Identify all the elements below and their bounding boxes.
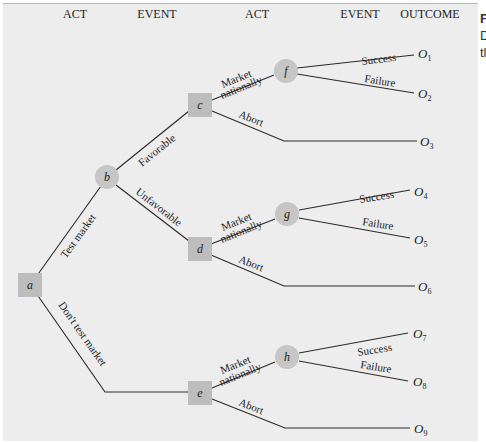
node-c-label: c (197, 98, 203, 112)
edge-labels: Test market Don't test market Favorable … (56, 51, 396, 417)
outcome-o2: O2 (418, 86, 431, 103)
outcome-o9: O9 (414, 421, 427, 438)
edge-favorable (116, 111, 189, 170)
outcome-o3: O3 (420, 134, 433, 151)
outcome-o6: O6 (418, 279, 431, 296)
node-g-label: g (284, 207, 290, 221)
outcome-o4: O4 (414, 184, 427, 201)
header-outcome: OUTCOME (400, 7, 459, 21)
outcome-o1: O1 (418, 46, 431, 63)
header-event-2: EVENT (340, 7, 380, 21)
label-d-abort: Abort (237, 253, 265, 274)
node-c: c (188, 93, 212, 117)
node-g: g (275, 202, 299, 226)
label-h-success: Success (356, 341, 392, 358)
node-d: d (188, 237, 212, 261)
decision-tree: ACT EVENT ACT EVENT OUTCOME Test market … (0, 0, 486, 442)
label-h-failure: Failure (360, 358, 393, 375)
header-act-2: ACT (245, 7, 270, 21)
header-event-1: EVENT (137, 7, 177, 21)
label-unfavorable: Unfavorable (134, 185, 185, 228)
node-b-label: b (104, 170, 110, 184)
node-h-label: h (284, 350, 290, 364)
label-e-abort: Abort (237, 396, 265, 417)
node-d-label: d (197, 242, 204, 256)
node-b: b (95, 165, 119, 189)
label-g-success: Success (358, 188, 394, 205)
outcome-o7: O7 (413, 326, 426, 343)
label-f-success: Success (361, 51, 397, 67)
node-a: a (18, 273, 42, 297)
header-act-1: ACT (63, 7, 88, 21)
edge-f-failure (297, 74, 414, 93)
node-h: h (275, 345, 299, 369)
node-e: e (188, 381, 212, 405)
outcome-o5: O5 (414, 232, 427, 249)
node-a-label: a (27, 278, 33, 292)
outcome-o8: O8 (413, 374, 426, 391)
label-g-failure: Failure (362, 215, 395, 232)
label-f-failure: Failure (364, 72, 397, 89)
edge-test-market (36, 186, 101, 277)
outcomes: O1 O2 O3 O4 O5 O6 O7 O8 O9 (413, 46, 433, 438)
label-c-abort: Abort (237, 108, 265, 129)
node-e-label: e (197, 386, 203, 400)
node-f: f (274, 59, 298, 83)
